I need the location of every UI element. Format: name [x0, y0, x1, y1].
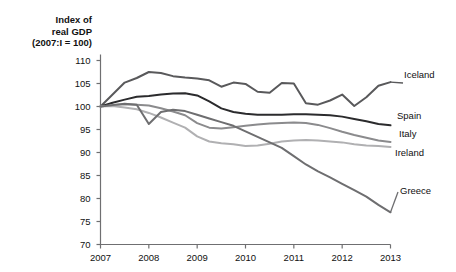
x-tick-label: 2010 [226, 252, 266, 263]
plot-canvas [0, 0, 456, 272]
x-tick-label: 2007 [81, 252, 121, 263]
series-label-iceland: Iceland [404, 69, 435, 80]
y-tick-label: 90 [65, 147, 91, 158]
series-label-italy: Italy [399, 128, 416, 139]
chart-figure: Index ofreal GDP(2007:I = 100) 707580859… [0, 0, 456, 272]
y-tick-label: 75 [65, 216, 91, 227]
y-tick-label: 85 [65, 170, 91, 181]
x-tick-label: 2013 [371, 252, 411, 263]
x-tick-label: 2011 [274, 252, 314, 263]
y-tick-label: 105 [65, 78, 91, 89]
y-tick-label: 110 [65, 55, 91, 66]
x-tick-label: 2012 [322, 252, 362, 263]
series-label-greece: Greece [400, 185, 431, 196]
x-tick-label: 2009 [177, 252, 217, 263]
x-tick-label: 2008 [129, 252, 169, 263]
y-tick-label: 95 [65, 124, 91, 135]
y-tick-label: 70 [65, 239, 91, 250]
series-label-spain: Spain [397, 110, 421, 121]
series-label-ireland: Ireland [395, 147, 424, 158]
y-tick-label: 80 [65, 193, 91, 204]
y-tick-label: 100 [65, 101, 91, 112]
